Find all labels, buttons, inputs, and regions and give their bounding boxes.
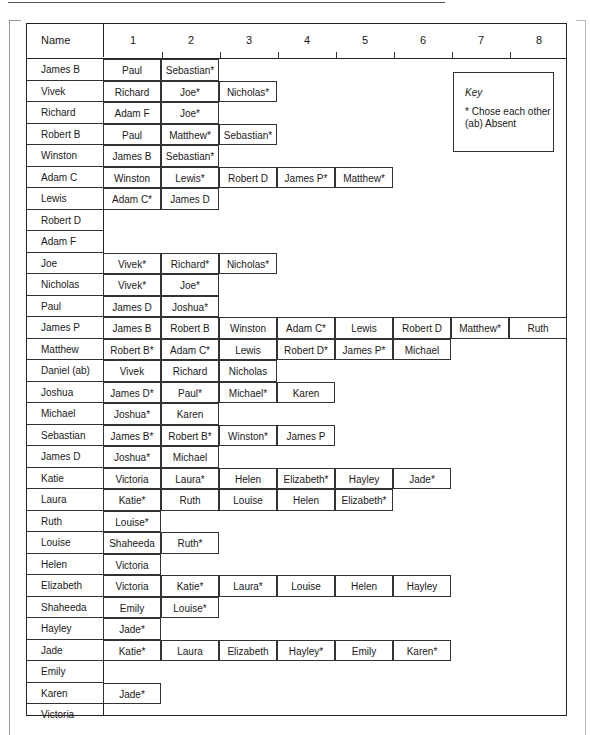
frame-left-tick	[9, 20, 21, 21]
row-name: Shaheeda	[27, 597, 104, 619]
choice-cell: Ruth	[161, 489, 219, 511]
choice-cell: Winston*	[219, 425, 277, 447]
header-column-4: 4	[278, 24, 336, 57]
table-row: Daniel (ab)VivekRichardNicholas	[27, 360, 566, 382]
header-column-2: 2	[162, 24, 220, 57]
row-name: Joe	[27, 253, 104, 275]
table-row: KarenJade*	[27, 683, 566, 705]
choice-cell: Robert D	[393, 317, 451, 339]
row-name: Michael	[27, 403, 104, 425]
choice-cell: Karen*	[393, 640, 451, 662]
choice-cell: Helen	[219, 468, 277, 490]
choice-cell: Michael*	[219, 382, 277, 404]
choice-cell: James P	[277, 425, 335, 447]
choice-cell: Nicholas*	[219, 253, 277, 275]
row-name: Ruth	[27, 511, 104, 533]
choice-cell: Lewis*	[161, 167, 219, 189]
table-row: NicholasVivek*Joe*	[27, 274, 566, 296]
choice-cell: Victoria	[103, 468, 161, 490]
row-name: Elizabeth	[27, 575, 104, 597]
choice-cell: Laura	[161, 640, 219, 662]
table-row: HelenVictoria	[27, 554, 566, 576]
choice-cell: Winston	[103, 167, 161, 189]
table-row: Robert D	[27, 210, 566, 232]
row-name: Hayley	[27, 618, 104, 640]
choice-cell: Vivek*	[103, 274, 161, 296]
choice-cell: Helen	[335, 575, 393, 597]
choice-cell: Katie*	[103, 640, 161, 662]
choice-cell: Paul	[103, 124, 161, 146]
row-name: Karen	[27, 683, 104, 705]
key-legend: Key * Chose each other (ab) Absent	[453, 72, 554, 152]
choice-cell: Karen	[277, 382, 335, 404]
choice-cell: Louise	[277, 575, 335, 597]
choice-cell: James D*	[103, 382, 161, 404]
choice-cell: Katie*	[161, 575, 219, 597]
choice-cell: James D	[161, 188, 219, 210]
choice-cell: Laura*	[219, 575, 277, 597]
choice-cell: Robert B*	[161, 425, 219, 447]
choice-cell: Nicholas*	[219, 81, 277, 103]
row-name: Louise	[27, 532, 104, 554]
choice-cell: James P*	[335, 339, 393, 361]
key-title: Key	[465, 87, 553, 98]
table-row: James PJames BRobert BWinstonAdam C*Lewi…	[27, 317, 566, 339]
table-row: ElizabethVictoriaKatie*Laura*LouiseHelen…	[27, 575, 566, 597]
row-name: Robert D	[27, 210, 104, 232]
choice-cell: Robert B	[161, 317, 219, 339]
table-row: PaulJames DJoshua*	[27, 296, 566, 318]
header-column-6: 6	[394, 24, 452, 57]
header-tick	[510, 52, 511, 58]
table-header: Name 12345678	[27, 24, 566, 59]
table-row: HayleyJade*	[27, 618, 566, 640]
header-column-8: 8	[510, 24, 568, 57]
choice-cell: James D	[103, 296, 161, 318]
choice-cell: Elizabeth	[219, 640, 277, 662]
choice-cell: Robert D	[219, 167, 277, 189]
row-name: Vivek	[27, 81, 104, 103]
row-name: Winston	[27, 145, 104, 167]
row-name: Laura	[27, 489, 104, 511]
choice-cell: Hayley	[335, 468, 393, 490]
table-row: RuthLouise*	[27, 511, 566, 533]
choice-cell: Jade*	[103, 683, 161, 705]
table-row: JoeVivek*Richard*Nicholas*	[27, 253, 566, 275]
choice-cell: Elizabeth*	[277, 468, 335, 490]
choice-cell: Matthew*	[161, 124, 219, 146]
choice-cell: Ruth	[509, 317, 567, 339]
choice-cell: Adam C*	[161, 339, 219, 361]
choice-cell: Jade*	[393, 468, 451, 490]
choice-cell: Helen	[277, 489, 335, 511]
row-name: Lewis	[27, 188, 104, 210]
choice-cell: Sebastian*	[161, 145, 219, 167]
header-tick	[394, 52, 395, 58]
choice-cell: Robert B*	[103, 339, 161, 361]
row-name: James P	[27, 317, 104, 339]
choice-cell: Adam C*	[277, 317, 335, 339]
choice-cell: Victoria	[103, 554, 161, 576]
frame-left-border	[9, 20, 10, 735]
row-name: Adam F	[27, 231, 104, 253]
row-name: Adam C	[27, 167, 104, 189]
table-row: MatthewRobert B*Adam C*LewisRobert D*Jam…	[27, 339, 566, 361]
choice-cell: Emily	[335, 640, 393, 662]
header-tick	[452, 52, 453, 58]
table-row: ShaheedaEmilyLouise*	[27, 597, 566, 619]
choice-cell: Vivek	[103, 360, 161, 382]
header-name: Name	[27, 24, 104, 57]
table-row: JoshuaJames D*Paul*Michael*Karen	[27, 382, 566, 404]
header-tick	[278, 52, 279, 58]
choice-cell: Emily	[103, 597, 161, 619]
row-name: Jade	[27, 640, 104, 662]
header-column-3: 3	[220, 24, 278, 57]
choice-cell: Adam F	[103, 102, 161, 124]
row-name: Daniel (ab)	[27, 360, 104, 382]
row-name: Joshua	[27, 382, 104, 404]
frame-right-border	[585, 20, 586, 735]
table-row: LauraKatie*RuthLouiseHelenElizabeth*	[27, 489, 566, 511]
choice-cell: Joshua*	[103, 446, 161, 468]
choice-cell: Victoria	[103, 575, 161, 597]
table-row: LewisAdam C*James D	[27, 188, 566, 210]
row-name: Katie	[27, 468, 104, 490]
choice-cell: Adam C*	[103, 188, 161, 210]
